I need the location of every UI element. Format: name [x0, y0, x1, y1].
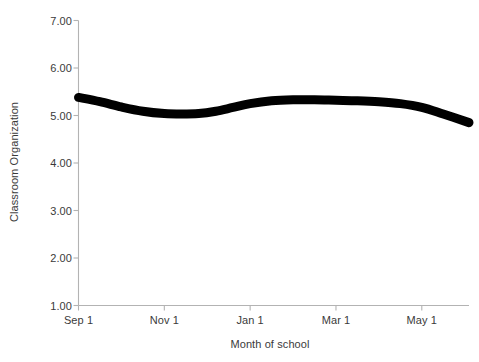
y-tick-label: 6.00: [36, 62, 72, 74]
y-tick-label: 2.00: [36, 252, 72, 264]
series-line-0: [79, 97, 470, 122]
axis-lines: [79, 21, 470, 306]
x-tick-label: May 1: [407, 314, 437, 326]
data-series-group: [79, 97, 470, 122]
chart-container: 7.006.005.004.003.002.001.00 Sep 1Nov 1J…: [0, 0, 479, 362]
x-tick-label: Jan 1: [236, 314, 263, 326]
x-tick-label: Nov 1: [150, 314, 179, 326]
y-tick-label: 4.00: [36, 157, 72, 169]
y-tick-label: 1.00: [36, 300, 72, 312]
x-tick-label: Mar 1: [322, 314, 351, 326]
y-axis-ticks: [74, 21, 79, 306]
y-tick-label: 5.00: [36, 110, 72, 122]
x-tick-label: Sep 1: [64, 314, 93, 326]
y-tick-label: 3.00: [36, 205, 72, 217]
x-axis-title: Month of school: [230, 338, 309, 350]
x-axis-ticks: [79, 306, 422, 311]
y-axis-title: Classroom Organization: [8, 102, 20, 222]
y-tick-label: 7.00: [36, 15, 72, 27]
